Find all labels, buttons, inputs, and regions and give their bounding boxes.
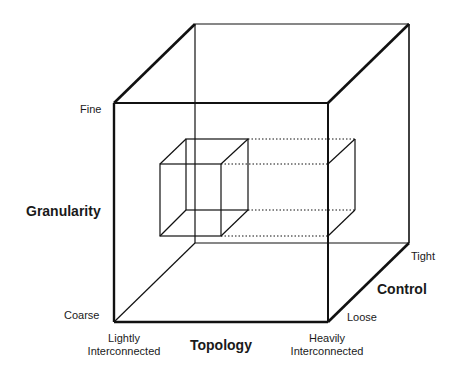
- projection-lines: [221, 139, 355, 236]
- projection-on-right-face: [328, 139, 355, 236]
- topology-high-line2: Interconnected: [277, 345, 377, 358]
- topology-low-line2: Interconnected: [84, 345, 164, 358]
- topology-axis-title: Topology: [190, 337, 252, 353]
- topology-high-label: Heavily Interconnected: [277, 332, 377, 358]
- granularity-high-label: Fine: [80, 103, 101, 116]
- inner-cube: [160, 139, 248, 236]
- topology-high-line1: Heavily: [277, 332, 377, 345]
- outer-cube-diagonal-edges: [114, 24, 409, 322]
- control-axis-title: Control: [377, 281, 427, 297]
- control-high-label: Tight: [411, 250, 435, 263]
- topology-low-line1: Lightly: [84, 332, 164, 345]
- granularity-low-label: Coarse: [64, 309, 99, 322]
- control-low-label: Loose: [347, 311, 377, 324]
- topology-low-label: Lightly Interconnected: [84, 332, 164, 358]
- granularity-axis-title: Granularity: [26, 203, 101, 219]
